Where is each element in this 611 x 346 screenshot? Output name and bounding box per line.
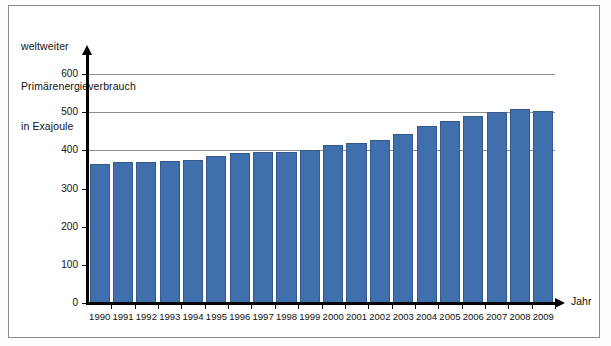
x-axis-title: Jahr xyxy=(571,295,591,307)
bar-2004 xyxy=(417,126,437,303)
x-tick-mark-2003 xyxy=(415,305,416,309)
x-tick-mark-1995 xyxy=(228,305,229,309)
bar-1996 xyxy=(230,153,250,303)
bar-1999 xyxy=(300,150,320,303)
x-tick-label-2003: 2003 xyxy=(392,311,415,322)
x-tick-mark-2004 xyxy=(438,305,439,309)
x-axis-arrow-icon xyxy=(555,298,565,308)
bar-2008 xyxy=(510,109,530,303)
x-tick-label-1990: 1990 xyxy=(88,311,111,322)
x-tick-label-2007: 2007 xyxy=(485,311,508,322)
bar-1990 xyxy=(90,164,110,303)
chart-figure: weltweiter Primärenergieverbrauch in Exa… xyxy=(0,0,611,346)
bar-1995 xyxy=(206,156,226,303)
x-tick-mark-1991 xyxy=(135,305,136,309)
bar-2009 xyxy=(533,111,553,303)
x-tick-mark-1998 xyxy=(298,305,299,309)
plot-area: 0100200300400500600 19901991199219931994… xyxy=(0,0,611,346)
bar-1997 xyxy=(253,152,273,303)
bar-2003 xyxy=(393,134,413,303)
bar-1993 xyxy=(160,161,180,303)
x-tick-mark-2009 xyxy=(555,305,556,309)
x-tick-mark-2001 xyxy=(368,305,369,309)
bar-2000 xyxy=(323,145,343,303)
x-tick-label-1998: 1998 xyxy=(275,311,298,322)
x-tick-label-2006: 2006 xyxy=(462,311,485,322)
x-tick-label-2000: 2000 xyxy=(322,311,345,322)
x-tick-mark-1992 xyxy=(158,305,159,309)
x-tick-label-2002: 2002 xyxy=(368,311,391,322)
x-tick-mark-1990 xyxy=(111,305,112,309)
bar-1998 xyxy=(276,152,296,303)
x-tick-label-1997: 1997 xyxy=(251,311,274,322)
x-tick-mark-1996 xyxy=(251,305,252,309)
x-tick-label-1992: 1992 xyxy=(135,311,158,322)
x-tick-label-1996: 1996 xyxy=(228,311,251,322)
bar-2007 xyxy=(487,112,507,303)
x-tick-label-1993: 1993 xyxy=(158,311,181,322)
x-tick-mark-2006 xyxy=(485,305,486,309)
bar-1991 xyxy=(113,162,133,303)
x-tick-label-2008: 2008 xyxy=(508,311,531,322)
x-tick-label-2001: 2001 xyxy=(345,311,368,322)
bar-1992 xyxy=(136,162,156,303)
x-tick-mark-2008 xyxy=(532,305,533,309)
bar-2001 xyxy=(346,143,366,303)
x-tick-mark-1999 xyxy=(322,305,323,309)
x-tick-mark-2002 xyxy=(392,305,393,309)
x-tick-mark-2000 xyxy=(345,305,346,309)
x-tick-mark-1997 xyxy=(275,305,276,309)
x-tick-label-2005: 2005 xyxy=(438,311,461,322)
x-tick-label-2004: 2004 xyxy=(415,311,438,322)
x-tick-mark-1994 xyxy=(205,305,206,309)
x-tick-label-1995: 1995 xyxy=(205,311,228,322)
bar-2005 xyxy=(440,121,460,303)
x-tick-label-1994: 1994 xyxy=(181,311,204,322)
x-tick-mark-2007 xyxy=(508,305,509,309)
x-tick-label-1999: 1999 xyxy=(298,311,321,322)
x-tick-label-2009: 2009 xyxy=(532,311,555,322)
x-tick-label-1991: 1991 xyxy=(111,311,134,322)
x-tick-mark-1993 xyxy=(181,305,182,309)
bar-series xyxy=(0,0,611,346)
bar-2002 xyxy=(370,140,390,303)
bar-1994 xyxy=(183,160,203,303)
bar-2006 xyxy=(463,116,483,303)
x-tick-mark-2005 xyxy=(462,305,463,309)
